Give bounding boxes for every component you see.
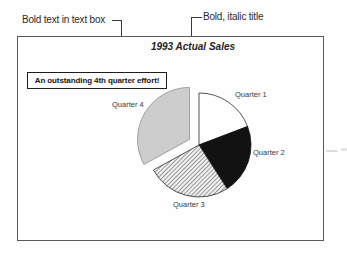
pie-chart (0, 0, 347, 253)
pie-label-quarter-1: Quarter 1 (235, 90, 267, 99)
pie-label-quarter-4: Quarter 4 (112, 100, 144, 109)
pie-label-quarter-2: Quarter 2 (253, 148, 285, 157)
pie-label-quarter-3: Quarter 3 (173, 200, 205, 209)
scan-artifact (341, 148, 347, 151)
pie-slice-4 (138, 87, 190, 164)
figure: Bold text in text box Bold, italic title… (0, 0, 347, 253)
scan-artifact (326, 150, 338, 152)
